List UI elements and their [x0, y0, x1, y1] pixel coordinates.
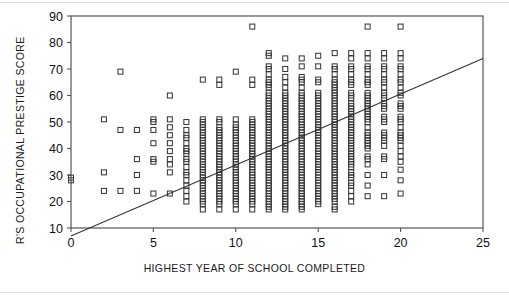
data-point — [316, 53, 321, 58]
x-axis-title: HIGHEST YEAR OF SCHOOL COMPLETED — [0, 262, 509, 274]
data-point — [349, 194, 354, 199]
data-point — [382, 143, 387, 148]
data-point — [365, 194, 370, 199]
data-point — [134, 127, 139, 132]
data-point — [134, 173, 139, 178]
data-point — [398, 24, 403, 29]
data-point — [299, 56, 304, 61]
y-tick-label: 60 — [49, 89, 63, 103]
data-point — [349, 51, 354, 56]
data-point — [332, 51, 337, 56]
data-point — [118, 188, 123, 193]
data-point — [184, 165, 189, 170]
data-point — [167, 141, 172, 146]
x-tick-label: 25 — [476, 236, 490, 250]
data-point — [365, 51, 370, 56]
data-point — [250, 207, 255, 212]
data-point — [365, 183, 370, 188]
data-point — [266, 72, 271, 77]
data-point — [349, 188, 354, 193]
data-point — [167, 157, 172, 162]
data-point — [283, 56, 288, 61]
data-point — [184, 120, 189, 125]
data-point — [365, 162, 370, 167]
data-point — [184, 194, 189, 199]
data-point — [151, 191, 156, 196]
data-point — [233, 69, 238, 74]
regression-line — [71, 58, 483, 236]
data-point — [382, 194, 387, 199]
data-point — [283, 74, 288, 79]
data-point — [349, 199, 354, 204]
y-tick-label: 50 — [49, 116, 63, 130]
x-tick-label: 0 — [68, 236, 75, 250]
data-point — [167, 117, 172, 122]
y-tick-label: 20 — [49, 195, 63, 209]
data-point — [398, 85, 403, 90]
data-point — [184, 199, 189, 204]
data-point — [101, 117, 106, 122]
data-point — [167, 125, 172, 130]
y-axis-title: R'S OCCUPATIONAL PRESTIGE SCORE — [14, 36, 26, 244]
data-point — [382, 85, 387, 90]
data-point — [283, 67, 288, 72]
data-point — [200, 77, 205, 82]
data-point — [184, 188, 189, 193]
data-point — [332, 72, 337, 77]
data-point — [398, 149, 403, 154]
data-point — [398, 56, 403, 61]
data-point — [349, 56, 354, 61]
data-point — [167, 162, 172, 167]
data-point — [398, 72, 403, 77]
data-point — [365, 24, 370, 29]
data-point — [316, 64, 321, 69]
y-tick-label: 70 — [49, 63, 63, 77]
data-point — [167, 133, 172, 138]
x-tick-label: 10 — [229, 236, 243, 250]
data-point — [233, 207, 238, 212]
data-point — [398, 143, 403, 148]
data-point — [167, 170, 172, 175]
data-point — [398, 178, 403, 183]
plot-frame — [71, 16, 483, 228]
data-point — [398, 167, 403, 172]
data-point — [250, 24, 255, 29]
data-point — [382, 173, 387, 178]
data-point — [398, 159, 403, 164]
data-point — [184, 127, 189, 132]
data-point — [250, 77, 255, 82]
data-point — [118, 127, 123, 132]
data-point — [250, 82, 255, 87]
data-points — [69, 24, 404, 212]
data-point — [184, 141, 189, 146]
y-tick-label: 10 — [49, 222, 63, 236]
data-point — [217, 207, 222, 212]
data-point — [151, 141, 156, 146]
data-point — [217, 77, 222, 82]
data-point — [101, 188, 106, 193]
data-point — [118, 69, 123, 74]
data-point — [134, 188, 139, 193]
data-point — [365, 72, 370, 77]
data-point — [398, 51, 403, 56]
data-point — [382, 51, 387, 56]
data-point — [398, 125, 403, 130]
data-point — [398, 154, 403, 159]
data-point — [398, 191, 403, 196]
data-point — [283, 80, 288, 85]
x-tick-label: 15 — [311, 236, 325, 250]
y-tick-label: 90 — [49, 10, 63, 24]
y-tick-label: 80 — [49, 36, 63, 50]
data-point — [217, 82, 222, 87]
data-point — [167, 93, 172, 98]
x-tick-label: 5 — [150, 236, 157, 250]
scatter-plot-figure: 1020304050607080900510152025 HIGHEST YEA… — [0, 0, 509, 296]
data-point — [101, 170, 106, 175]
data-point — [365, 56, 370, 61]
data-point — [365, 125, 370, 130]
x-tick-label: 20 — [394, 236, 408, 250]
data-point — [365, 173, 370, 178]
data-point — [233, 117, 238, 122]
data-point — [382, 72, 387, 77]
plot-canvas: 1020304050607080900510152025 — [0, 0, 509, 296]
